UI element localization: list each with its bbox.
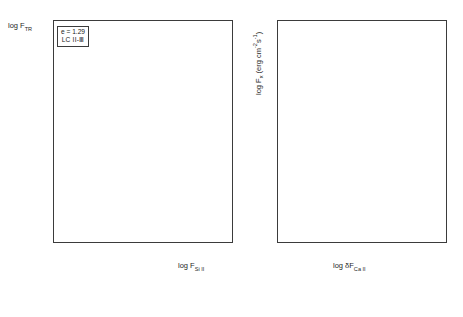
right-x-axis-title: log δFCa II — [333, 262, 366, 272]
figure-canvas: log FTR log FSi II e = 1.29 LC II-Ⅲ log … — [0, 0, 463, 317]
right-plot-frame — [277, 20, 447, 243]
right-plot-panel: log Fx (erg cm-2s-1) log δFCa II — [0, 0, 463, 317]
right-y-axis-title: log Fx (erg cm-2s-1) — [252, 32, 264, 95]
